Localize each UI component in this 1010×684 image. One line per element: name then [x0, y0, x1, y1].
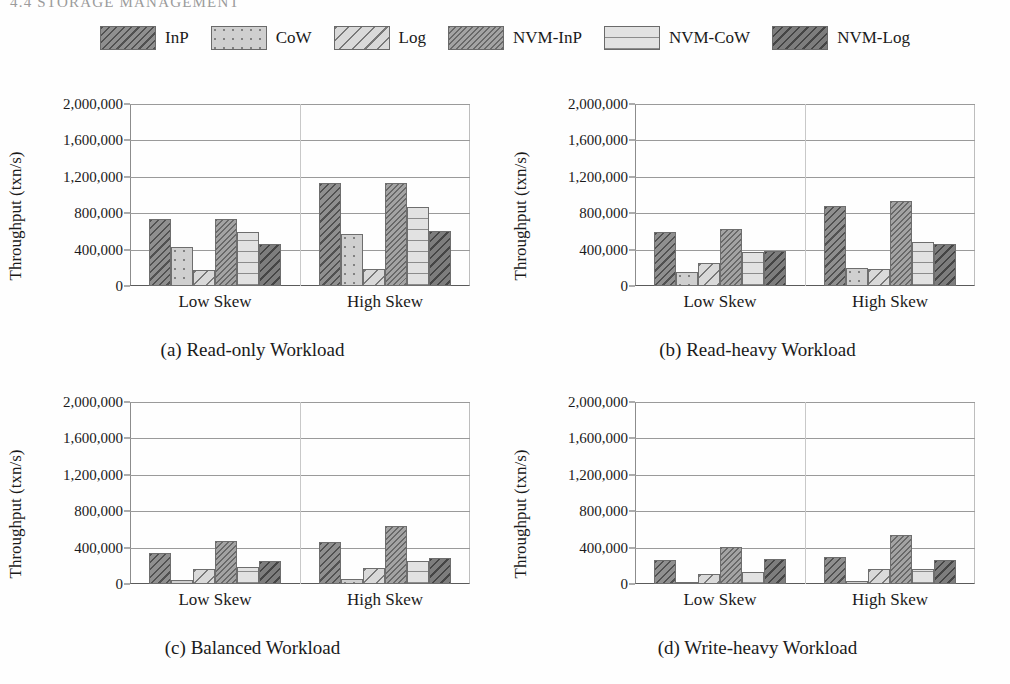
panel-caption-b: (b) Read-heavy Workload: [505, 339, 1010, 361]
y-axis-label: Throughput (txn/s): [6, 244, 24, 424]
bar-nvm-log: [934, 244, 956, 286]
bar-nvm-cow: [912, 242, 934, 286]
bar-group-low-skew: [130, 402, 300, 584]
y-tick-label: 1,200,000: [568, 466, 628, 483]
bar-nvm-cow: [237, 567, 259, 584]
legend-item-nvm-cow: NVM-CoW: [604, 26, 750, 50]
x-tick-label: High Skew: [347, 292, 423, 312]
panel-caption-d: (d) Write-heavy Workload: [505, 637, 1010, 659]
y-tick-label: 2,000,000: [63, 394, 123, 411]
bar-inp: [654, 560, 676, 584]
y-tick-label: 400,000: [74, 241, 123, 258]
bar-nvm-inp: [720, 229, 742, 286]
bar-log: [193, 569, 215, 584]
plot-area: 0400,000800,0001,200,0001,600,0002,000,0…: [130, 104, 470, 286]
bar-inp: [824, 557, 846, 584]
y-axis-label: Throughput (txn/s): [511, 244, 529, 424]
chart-legend: InPCoWLogNVM-InPNVM-CoWNVM-Log: [0, 26, 1010, 50]
bar-log: [698, 574, 720, 584]
bar-group-high-skew: [300, 402, 470, 584]
legend-swatch-nvm-cow: [604, 26, 660, 50]
y-tick-label: 800,000: [579, 205, 628, 222]
y-tick-label: 1,200,000: [63, 168, 123, 185]
y-tick-label: 1,200,000: [568, 168, 628, 185]
bar-log: [868, 569, 890, 584]
y-tick-label: 1,600,000: [63, 132, 123, 149]
bar-nvm-log: [429, 558, 451, 584]
y-tick-label: 400,000: [579, 241, 628, 258]
y-tick-label: 800,000: [74, 503, 123, 520]
bar-nvm-cow: [407, 561, 429, 584]
legend-swatch-cow: [211, 26, 267, 50]
x-tick-label: High Skew: [347, 590, 423, 610]
legend-label: InP: [165, 28, 189, 48]
legend-swatch-log: [334, 26, 390, 50]
bar-nvm-inp: [215, 219, 237, 286]
plot-area: 0400,000800,0001,200,0001,600,0002,000,0…: [635, 402, 975, 584]
bar-cow: [171, 247, 193, 286]
x-tick-label: Low Skew: [178, 292, 251, 312]
y-tick-label: 1,600,000: [568, 132, 628, 149]
legend-item-inp: InP: [100, 26, 189, 50]
panel-b: Throughput (txn/s)0400,000800,0001,200,0…: [505, 86, 1010, 386]
bar-group-low-skew: [635, 104, 805, 286]
bars-container: [635, 402, 975, 584]
y-tick-label: 1,600,000: [568, 430, 628, 447]
bar-inp: [824, 206, 846, 286]
bar-group-high-skew: [300, 104, 470, 286]
bar-nvm-inp: [385, 526, 407, 584]
bar-log: [363, 568, 385, 584]
bar-cow: [171, 580, 193, 584]
x-tick-label: Low Skew: [178, 590, 251, 610]
bar-nvm-log: [934, 560, 956, 584]
bar-nvm-inp: [720, 547, 742, 584]
bar-inp: [149, 553, 171, 584]
bar-nvm-inp: [215, 541, 237, 584]
panel-caption-a: (a) Read-only Workload: [0, 339, 505, 361]
running-header: 4.4 STORAGE MANAGEMENT: [0, 0, 1010, 11]
y-axis-label-text: Throughput (txn/s): [511, 424, 531, 604]
y-tick-label: 0: [621, 278, 629, 295]
legend-item-nvm-log: NVM-Log: [772, 26, 910, 50]
panel-a: Throughput (txn/s)0400,000800,0001,200,0…: [0, 86, 505, 386]
y-tick-label: 0: [621, 576, 629, 593]
bar-cow: [676, 272, 698, 286]
panel-grid: Throughput (txn/s)0400,000800,0001,200,0…: [0, 86, 1010, 684]
bar-nvm-log: [259, 244, 281, 286]
x-tick-label: Low Skew: [683, 590, 756, 610]
bar-cow: [846, 581, 868, 584]
bar-log: [698, 263, 720, 286]
plot-area: 0400,000800,0001,200,0001,600,0002,000,0…: [635, 104, 975, 286]
bar-cow: [846, 268, 868, 286]
y-axis-label: Throughput (txn/s): [511, 0, 529, 126]
legend-label: CoW: [276, 28, 312, 48]
bar-nvm-log: [764, 251, 786, 286]
bar-nvm-cow: [912, 569, 934, 584]
bar-nvm-log: [764, 559, 786, 584]
plot-area: 0400,000800,0001,200,0001,600,0002,000,0…: [130, 402, 470, 584]
bars-container: [130, 402, 470, 584]
y-tick-label: 2,000,000: [63, 96, 123, 113]
legend-item-log: Log: [334, 26, 426, 50]
bars-container: [130, 104, 470, 286]
bar-group-low-skew: [130, 104, 300, 286]
legend-label: NVM-CoW: [669, 28, 750, 48]
bar-nvm-cow: [742, 252, 764, 286]
bar-nvm-log: [259, 561, 281, 584]
bar-nvm-inp: [385, 183, 407, 286]
panel-c: Throughput (txn/s)0400,000800,0001,200,0…: [0, 384, 505, 684]
panel-caption-c: (c) Balanced Workload: [0, 637, 505, 659]
y-tick-label: 800,000: [74, 205, 123, 222]
y-tick-label: 0: [116, 278, 124, 295]
bar-nvm-cow: [742, 572, 764, 584]
bar-inp: [319, 542, 341, 584]
y-tick-label: 400,000: [579, 539, 628, 556]
y-tick-label: 1,200,000: [63, 466, 123, 483]
bar-log: [868, 269, 890, 286]
bar-cow: [676, 582, 698, 584]
legend-label: NVM-Log: [837, 28, 910, 48]
bar-nvm-cow: [237, 232, 259, 286]
y-tick-label: 2,000,000: [568, 96, 628, 113]
bar-nvm-cow: [407, 207, 429, 286]
legend-swatch-inp: [100, 26, 156, 50]
